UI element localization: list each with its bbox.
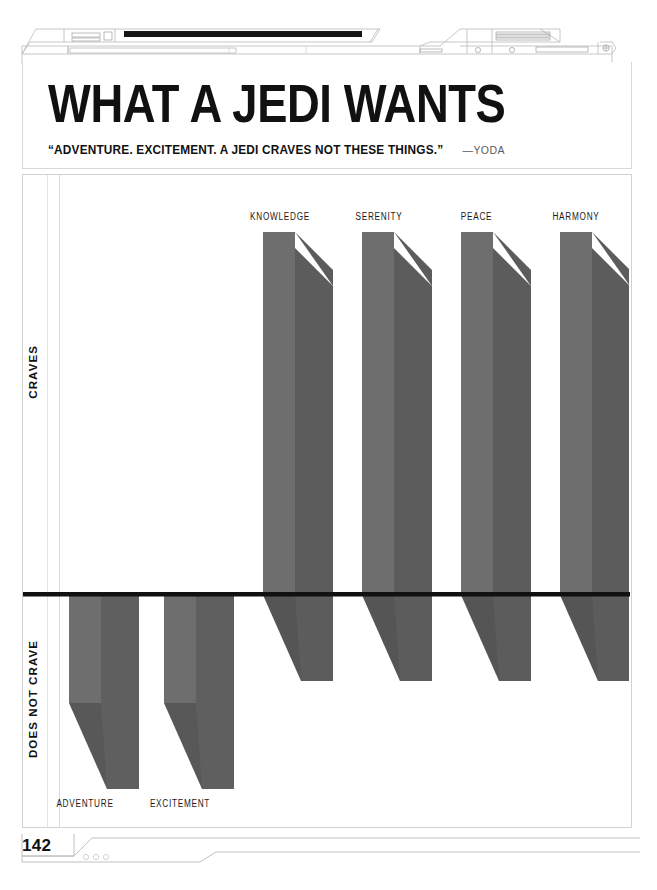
page-canvas: WHAT A JEDI WANTS “ADVENTURE. EXCITEMENT…	[0, 0, 657, 890]
chart-frame	[22, 174, 632, 828]
bar-label-adventure: ADVENTURE	[54, 798, 116, 809]
header-line-art	[0, 18, 657, 64]
bar-label-knowledge: KNOWLEDGE	[247, 211, 313, 222]
bar-label-harmony: HARMONY	[544, 211, 608, 222]
axis-inner-rule	[59, 175, 60, 827]
bar-label-peace: PEACE	[447, 211, 507, 222]
subtitle-quote: “ADVENTURE. EXCITEMENT. A JEDI CRAVES NO…	[48, 143, 443, 157]
bar-label-serenity: SERENITY	[347, 211, 411, 222]
page-number: 142	[22, 836, 51, 856]
axis-outer-rule	[47, 175, 48, 827]
axis-label-does-not-crave: DOES NOT CRAVE	[27, 640, 39, 758]
subtitle-row: “ADVENTURE. EXCITEMENT. A JEDI CRAVES NO…	[48, 143, 505, 157]
axis-label-craves: CRAVES	[27, 345, 39, 399]
footer-line-art	[0, 826, 657, 870]
page-title: WHAT A JEDI WANTS	[48, 76, 505, 130]
subtitle-attribution: —YODA	[463, 144, 505, 156]
bar-label-excitement: EXCITEMENT	[147, 798, 213, 809]
